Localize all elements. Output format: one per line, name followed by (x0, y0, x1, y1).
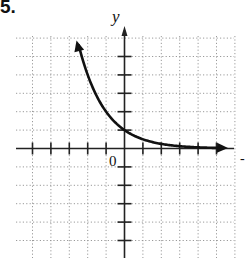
origin-label: 0 (109, 153, 117, 169)
curve-arrowhead-upper (74, 40, 84, 52)
x-axis-label-partial: - (240, 151, 245, 166)
axes (16, 30, 234, 258)
exponential-curve (79, 44, 223, 148)
y-axis-arrowhead (122, 26, 128, 36)
exponential-graph: y 0 - (0, 0, 245, 258)
curve-arrowhead-right (217, 143, 228, 153)
y-axis-label: y (110, 7, 120, 26)
